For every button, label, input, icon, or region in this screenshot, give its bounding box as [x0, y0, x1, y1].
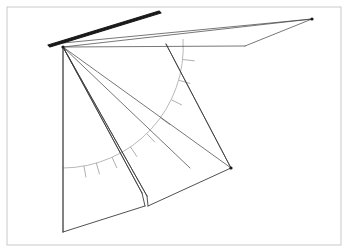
figure-svg: [0, 0, 348, 252]
right-wing-vertex: [310, 17, 313, 20]
lower-right-vertex: [229, 166, 232, 169]
apex-vertex: [61, 45, 64, 48]
drawing-canvas: [0, 0, 348, 252]
